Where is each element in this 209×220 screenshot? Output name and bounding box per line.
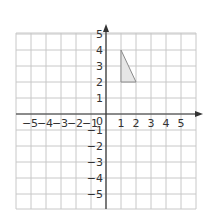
x-tick-label: −2 xyxy=(67,117,83,130)
origin-label: 0 xyxy=(96,115,103,128)
coordinate-grid: −5−4−3−2−11234554321−1−2−3−4−50 xyxy=(0,0,209,220)
x-tick-label: −5 xyxy=(22,117,38,130)
y-tick-label: 5 xyxy=(96,28,103,41)
y-tick-label: 3 xyxy=(96,60,103,73)
y-tick-label: −4 xyxy=(87,172,103,185)
x-axis-arrow-icon xyxy=(195,111,203,117)
y-axis-arrow-icon xyxy=(103,24,109,32)
x-tick-label: 4 xyxy=(163,117,170,130)
x-tick-label: 1 xyxy=(118,117,125,130)
x-tick-label: 3 xyxy=(148,117,155,130)
x-tick-label: 2 xyxy=(133,117,140,130)
x-tick-label: −3 xyxy=(52,117,68,130)
y-tick-label: −2 xyxy=(87,140,103,153)
y-tick-label: −5 xyxy=(87,188,103,201)
x-tick-label: −4 xyxy=(37,117,53,130)
y-tick-label: 2 xyxy=(96,76,103,89)
x-tick-label: 5 xyxy=(178,117,185,130)
y-tick-label: 4 xyxy=(96,44,103,57)
y-tick-label: 1 xyxy=(96,92,103,105)
y-tick-label: −3 xyxy=(87,156,103,169)
